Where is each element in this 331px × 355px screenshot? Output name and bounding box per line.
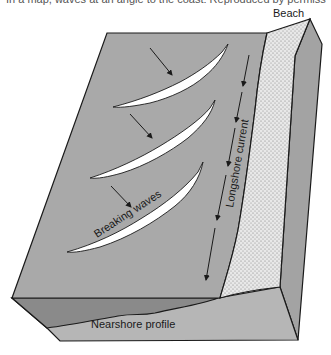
longshore-current-block-diagram: Beach Longshore current Breaking waves N… bbox=[0, 0, 331, 355]
nearshore-profile-label: Nearshore profile bbox=[91, 318, 175, 330]
beach-label: Beach bbox=[273, 7, 304, 19]
